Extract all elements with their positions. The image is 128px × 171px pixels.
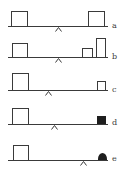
fulcrum-icon: [51, 125, 58, 130]
right-weight-box: [88, 11, 105, 26]
left-weight-box: [12, 108, 29, 124]
fulcrum-icon: [45, 91, 52, 96]
right-solid-weight-box: [97, 116, 106, 124]
right-small-weight-box: [82, 48, 93, 57]
right-tall-weight-box: [96, 38, 106, 57]
fulcrum-icon: [55, 58, 62, 63]
left-weight-box: [11, 11, 28, 26]
panel-label: c: [112, 86, 116, 94]
fulcrum-icon: [55, 27, 62, 32]
left-weight-box: [12, 73, 29, 90]
left-weight-box: [13, 145, 29, 160]
right-solid-dome-weight: [98, 153, 107, 160]
right-small-weight-box: [97, 81, 106, 90]
fulcrum-icon: [80, 161, 87, 166]
left-weight-box: [12, 43, 28, 57]
beam: [8, 160, 108, 161]
panel-label: b: [112, 53, 117, 61]
panel-label: e: [112, 155, 117, 163]
panel-label: d: [112, 119, 117, 127]
beam: [8, 90, 108, 91]
panel-label: a: [112, 22, 117, 30]
beam: [8, 124, 108, 125]
